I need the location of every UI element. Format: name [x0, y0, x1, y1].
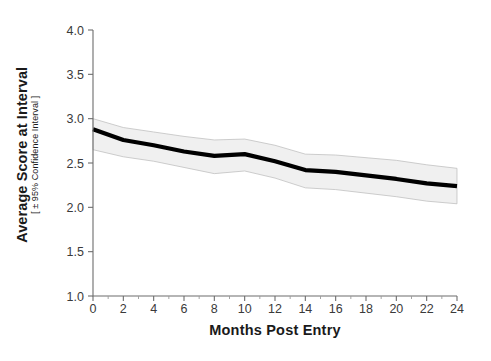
plot-area: 1.01.52.02.53.03.54.0 024681012141618202… — [0, 0, 491, 361]
y-tick-label: 1.5 — [67, 245, 84, 259]
x-tick-label: 6 — [181, 302, 188, 316]
x-tick-label: 18 — [359, 302, 373, 316]
y-tick-label: 3.0 — [67, 112, 84, 126]
chart-figure: Average Score at Interval [ ± 95% Confid… — [0, 0, 491, 361]
y-tick-label: 2.0 — [67, 201, 84, 215]
x-tick-label: 20 — [389, 302, 403, 316]
x-tick-label: 2 — [120, 302, 127, 316]
y-tick-label: 1.0 — [67, 290, 84, 304]
x-tick-label: 10 — [238, 302, 252, 316]
x-tick-label: 8 — [211, 302, 218, 316]
x-tick-label: 16 — [329, 302, 343, 316]
x-tick-label: 22 — [420, 302, 434, 316]
y-tick-label: 4.0 — [67, 24, 84, 38]
y-tick-label: 2.5 — [67, 157, 84, 171]
x-tick-label: 14 — [298, 302, 312, 316]
x-tick-label: 0 — [90, 302, 97, 316]
x-tick-label: 12 — [268, 302, 282, 316]
x-tick-label: 24 — [450, 302, 464, 316]
x-axis-ticks: 024681012141618202224 — [90, 296, 464, 316]
x-tick-label: 4 — [150, 302, 157, 316]
y-tick-label: 3.5 — [67, 68, 84, 82]
y-axis-ticks: 1.01.52.02.53.03.54.0 — [67, 24, 93, 304]
